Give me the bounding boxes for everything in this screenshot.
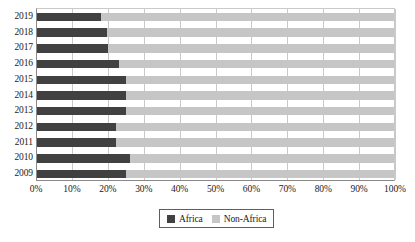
bar-row <box>37 28 394 37</box>
chart-legend: AfricaNon-Africa <box>159 209 274 228</box>
x-tick-label-80pct: 80% <box>315 183 332 195</box>
bar-segment-non-africa <box>126 76 394 85</box>
bar-segment-africa <box>37 107 126 116</box>
y-tick-label-2013: 2013 <box>0 105 33 115</box>
bar-segment-non-africa <box>101 13 394 22</box>
y-tick-label-2012: 2012 <box>0 121 33 131</box>
x-tick-label-10pct: 10% <box>63 183 80 195</box>
y-tick-label-2009: 2009 <box>0 168 33 178</box>
x-tick-label-0pct: 0% <box>30 183 42 195</box>
bar-segment-africa <box>37 123 116 132</box>
legend-item-africa[interactable]: Africa <box>167 214 203 224</box>
bar-segment-non-africa <box>116 123 394 132</box>
bar-segment-africa <box>37 154 130 163</box>
gridline-100pct <box>395 9 396 180</box>
bar-row <box>37 123 394 132</box>
x-tick-label-40pct: 40% <box>171 183 188 195</box>
legend-label: Non-Africa <box>224 214 267 224</box>
x-tick-label-60pct: 60% <box>243 183 260 195</box>
bar-segment-africa <box>37 28 107 37</box>
y-tick-label-2015: 2015 <box>0 74 33 84</box>
bar-segment-africa <box>37 60 119 69</box>
legend-swatch-icon <box>167 215 175 223</box>
bar-segment-non-africa <box>126 170 394 179</box>
legend-item-nonafrica[interactable]: Non-Africa <box>212 214 267 224</box>
x-tick-label-70pct: 70% <box>279 183 296 195</box>
legend-label: Africa <box>179 214 203 224</box>
bar-row <box>37 76 394 85</box>
bar-segment-non-africa <box>116 138 394 147</box>
y-tick-label-2019: 2019 <box>0 11 33 21</box>
x-axis: 0%10%20%30%40%50%60%70%80%90%100% <box>0 183 415 197</box>
y-tick-label-2016: 2016 <box>0 58 33 68</box>
bar-segment-non-africa <box>119 60 394 69</box>
x-tick-label-50pct: 50% <box>207 183 224 195</box>
y-tick-label-2011: 2011 <box>0 137 33 147</box>
bar-row <box>37 91 394 100</box>
bar-segment-africa <box>37 170 126 179</box>
bars-layer <box>37 9 394 180</box>
plot-area <box>36 8 395 181</box>
y-tick-label-2017: 2017 <box>0 42 33 52</box>
bar-segment-non-africa <box>126 107 394 116</box>
bar-row <box>37 107 394 116</box>
x-tick-label-20pct: 20% <box>99 183 116 195</box>
bar-row <box>37 13 394 22</box>
bar-row <box>37 138 394 147</box>
bar-segment-africa <box>37 76 126 85</box>
bar-segment-africa <box>37 44 108 53</box>
bar-segment-africa <box>37 91 126 100</box>
bar-segment-non-africa <box>130 154 394 163</box>
y-tick-label-2010: 2010 <box>0 152 33 162</box>
y-tick-label-2014: 2014 <box>0 90 33 100</box>
bar-segment-non-africa <box>126 91 394 100</box>
y-tick-label-2018: 2018 <box>0 27 33 37</box>
y-axis: 2019201820172016201520142013201220112010… <box>0 8 33 181</box>
bar-segment-africa <box>37 13 101 22</box>
bar-segment-africa <box>37 138 116 147</box>
bar-row <box>37 60 394 69</box>
x-tick-label-90pct: 90% <box>351 183 368 195</box>
bar-segment-non-africa <box>107 28 394 37</box>
legend-swatch-icon <box>212 215 220 223</box>
stacked-bar-chart: 2019201820172016201520142013201220112010… <box>0 0 415 242</box>
bar-row <box>37 170 394 179</box>
x-tick-label-30pct: 30% <box>135 183 152 195</box>
bar-segment-non-africa <box>108 44 394 53</box>
x-tick-label-100pct: 100% <box>384 183 406 195</box>
bar-row <box>37 154 394 163</box>
bar-row <box>37 44 394 53</box>
